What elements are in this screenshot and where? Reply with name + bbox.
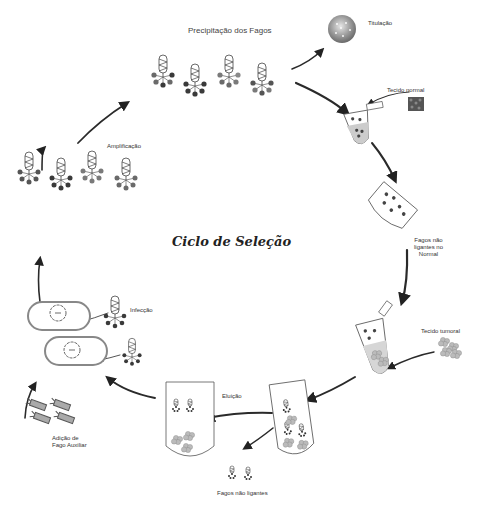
label-normal-tissue: Tecido normal <box>387 87 424 94</box>
label-precipitation: Precipitação dos Fagos <box>188 26 272 35</box>
label-non-binding-normal-line-1: Fagos não <box>414 237 443 244</box>
label-helper-phage-line-2: Fago Auxiliar <box>52 442 87 449</box>
label-non-binding-phages: Fagos não ligantes <box>217 490 268 497</box>
non-binding-phages <box>228 466 252 480</box>
normal-tissue <box>408 97 424 111</box>
tumor-tissue <box>438 337 461 358</box>
tube-washing <box>365 182 417 232</box>
bacterium-1 <box>28 302 90 330</box>
diagram-graphics <box>0 0 477 508</box>
label-non-binding-normal-line-2: ligantes no <box>414 244 443 251</box>
precipitation-phages <box>151 55 273 97</box>
label-helper-phage-line-1: Adição de <box>52 435 87 442</box>
tube-binding <box>269 380 315 456</box>
tube-tumor-tissue <box>352 300 408 377</box>
label-helper-phage: Adição de Fago Auxiliar <box>52 435 87 449</box>
amplification-phages <box>18 151 138 191</box>
tube-elution <box>166 382 214 456</box>
diagram-title: Ciclo de Seleção <box>172 234 291 249</box>
helper-phages <box>26 398 75 423</box>
label-elution: Eluição <box>222 393 242 400</box>
label-infection: Infecção <box>130 307 153 314</box>
label-tumor-tissue: Tecido tumoral <box>421 328 460 335</box>
cycle-arrows <box>25 50 434 448</box>
bacterium-2 <box>45 337 107 365</box>
tube-normal-tissue <box>343 101 389 145</box>
label-non-binding-normal-line-3: Normal <box>414 251 443 258</box>
label-amplification: Amplificação <box>107 143 141 150</box>
label-titration: Titulação <box>368 20 392 27</box>
label-non-binding-normal: Fagos não ligantes no Normal <box>414 237 443 258</box>
titration-plate <box>328 15 356 43</box>
selection-cycle-diagram: Precipitação dos Fagos Titulação Tecido … <box>0 0 477 508</box>
